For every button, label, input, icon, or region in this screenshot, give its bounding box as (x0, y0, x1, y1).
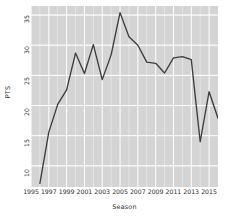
y-tick-label: 10 (24, 169, 30, 177)
plot-svg (31, 6, 218, 187)
line-chart: PTS 35 30 25 20 15 10 1995 1997 1999 200… (0, 0, 225, 224)
y-tick-label: 15 (24, 139, 30, 147)
x-tick-label: 2013 (183, 189, 199, 195)
x-tick-label: 2009 (148, 189, 164, 195)
x-tick-label: 2015 (201, 189, 217, 195)
major-gridlines (31, 6, 218, 187)
x-tick-label: 2003 (94, 189, 110, 195)
minor-gridlines (31, 6, 218, 187)
y-tick-label: 25 (24, 77, 30, 85)
y-tick-label: 30 (24, 46, 30, 54)
y-tick-label: 35 (24, 15, 30, 23)
x-axis-title: Season (31, 203, 218, 211)
x-tick-label: 2005 (112, 189, 128, 195)
x-tick-label: 1997 (41, 189, 57, 195)
y-tick-label: 20 (24, 108, 30, 116)
x-tick-label: 1999 (59, 189, 75, 195)
plot-panel (31, 6, 218, 187)
x-tick-label: 2011 (166, 189, 182, 195)
x-axis: 1995 1997 1999 2001 2003 2005 2007 2009 … (31, 189, 218, 203)
y-axis: PTS 35 30 25 20 15 10 (0, 0, 31, 194)
x-tick-label: 2001 (77, 189, 93, 195)
x-tick-label: 1995 (23, 189, 39, 195)
y-axis-title: PTS (4, 86, 12, 98)
x-tick-label: 2007 (130, 189, 146, 195)
